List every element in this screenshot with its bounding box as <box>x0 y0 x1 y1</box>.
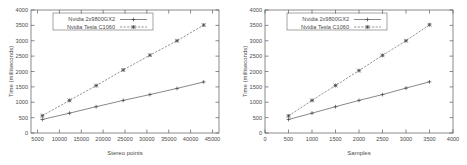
y-tick-label: 2500 <box>16 53 28 59</box>
y-tick-label: 3500 <box>16 22 28 28</box>
y-tick-label: 0 <box>25 130 28 136</box>
x-tick-label: 500 <box>284 136 293 142</box>
chart-stereo-points: 0500100015002000250030003500400050001000… <box>0 0 233 165</box>
y-tick-label: 1500 <box>250 84 262 90</box>
chart-canvas-right: 0500100015002000250030003500400005001000… <box>234 0 467 165</box>
series-0 <box>287 80 432 121</box>
x-tick-label: 5000 <box>31 136 43 142</box>
x-tick-label: 20000 <box>95 136 111 142</box>
x-tick-label: 15000 <box>73 136 89 142</box>
x-tick-label: 25000 <box>117 136 133 142</box>
series-1 <box>40 23 205 118</box>
x-tick-label: 10000 <box>52 136 68 142</box>
y-tick-label: 500 <box>19 115 28 121</box>
y-tick-label: 3000 <box>250 38 262 44</box>
series-1 <box>287 23 432 118</box>
x-tick-label: 1500 <box>329 136 341 142</box>
y-tick-label: 1500 <box>16 84 28 90</box>
y-tick-label: 4000 <box>16 7 28 13</box>
legend-key-marker <box>366 25 370 29</box>
y-tick-label: 1000 <box>250 99 262 105</box>
y-tick-label: 2000 <box>16 69 28 75</box>
x-tick-label: 3000 <box>400 136 412 142</box>
y-axis-title: Time (milliseconds) <box>8 46 14 97</box>
y-tick-label: 2000 <box>250 69 262 75</box>
x-axis-title: Samples <box>347 150 370 156</box>
figure-container: 0500100015002000250030003500400050001000… <box>0 0 467 165</box>
legend-key-marker <box>366 18 370 22</box>
series-0 <box>40 80 205 121</box>
legend-label: Nvidia 2x9800GX2 <box>68 16 115 22</box>
y-tick-label: 1000 <box>16 99 28 105</box>
y-tick-label: 4000 <box>250 7 262 13</box>
y-tick-label: 500 <box>253 115 262 121</box>
y-axis-title: Time (milliseconds) <box>242 46 248 97</box>
legend-key-marker <box>132 18 136 22</box>
x-tick-label: 2500 <box>376 136 388 142</box>
x-tick-label: 0 <box>263 136 266 142</box>
x-tick-label: 30000 <box>139 136 155 142</box>
x-tick-label: 45000 <box>205 136 221 142</box>
x-axis-title: Stereo points <box>107 150 142 156</box>
x-tick-label: 1000 <box>306 136 318 142</box>
y-tick-label: 2500 <box>250 53 262 59</box>
legend-key-marker <box>132 25 136 29</box>
y-tick-label: 3000 <box>16 38 28 44</box>
x-tick-label: 2000 <box>353 136 365 142</box>
legend-label: Nvidia Tesla C1060 <box>67 24 115 30</box>
x-tick-label: 4000 <box>447 136 459 142</box>
y-tick-label: 3500 <box>250 22 262 28</box>
legend-label: Nvidia Tesla C1060 <box>301 24 349 30</box>
legend-label: Nvidia 2x9800GX2 <box>302 16 349 22</box>
y-tick-label: 0 <box>259 130 262 136</box>
x-tick-label: 40000 <box>183 136 199 142</box>
x-tick-label: 35000 <box>161 136 177 142</box>
x-tick-label: 3500 <box>423 136 435 142</box>
chart-samples: 0500100015002000250030003500400005001000… <box>234 0 467 165</box>
chart-canvas-left: 0500100015002000250030003500400050001000… <box>0 0 233 165</box>
